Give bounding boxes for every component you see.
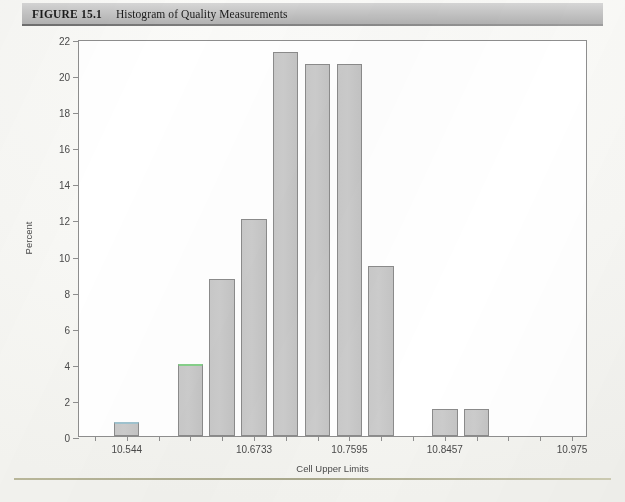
x-axis-tick-label: 10.975 (557, 444, 588, 455)
plot-frame: 0246810121416182022 10.54410.673310.7595… (78, 40, 587, 437)
figure-title: Histogram of Quality Measurements (116, 8, 288, 20)
y-axis-tick (73, 221, 79, 222)
y-axis-tick (73, 77, 79, 78)
histogram-chart: Percent 0246810121416182022 10.54410.673… (0, 26, 625, 478)
histogram-bar (273, 52, 298, 436)
x-axis-tick (572, 436, 573, 441)
y-axis-tick (73, 294, 79, 295)
histogram-bar (432, 409, 457, 436)
x-axis-tick (413, 436, 414, 441)
y-axis-tick (73, 149, 79, 150)
histogram-bar (241, 219, 266, 436)
y-axis-tick-label: 6 (64, 324, 70, 335)
scanned-page: FIGURE 15.1 Histogram of Quality Measure… (0, 0, 625, 502)
y-axis-tick-label: 12 (59, 216, 70, 227)
x-axis-tick (477, 436, 478, 441)
histogram-bar (114, 422, 139, 436)
x-axis-tick-label: 10.544 (111, 444, 142, 455)
x-axis-tick-label: 10.7595 (331, 444, 367, 455)
y-axis-tick-label: 22 (59, 36, 70, 47)
y-axis-tick-label: 4 (64, 360, 70, 371)
histogram-bar (305, 64, 330, 436)
y-axis-tick-label: 14 (59, 180, 70, 191)
x-axis-tick (508, 436, 509, 441)
y-axis-tick (73, 402, 79, 403)
histogram-bar (464, 409, 489, 436)
y-axis-tick (73, 113, 79, 114)
x-axis-tick (286, 436, 287, 441)
histogram-bar (209, 279, 234, 436)
y-axis-tick (73, 366, 79, 367)
y-axis-tick-label: 2 (64, 396, 70, 407)
x-axis-tick (318, 436, 319, 441)
x-axis-tick (190, 436, 191, 441)
x-axis-title: Cell Upper Limits (78, 463, 587, 474)
y-axis-tick-label: 0 (64, 433, 70, 444)
y-axis-tick-label: 18 (59, 108, 70, 119)
x-axis-tick (222, 436, 223, 441)
y-axis-tick-label: 20 (59, 72, 70, 83)
figure-header-bar: FIGURE 15.1 Histogram of Quality Measure… (22, 3, 603, 24)
x-axis-tick (349, 436, 350, 441)
x-axis-tick (127, 436, 128, 441)
x-axis-tick (445, 436, 446, 441)
histogram-bar (368, 266, 393, 436)
y-axis-title: Percent (23, 222, 34, 255)
footer-rule (14, 478, 611, 480)
y-axis-tick (73, 438, 79, 439)
x-axis-tick (540, 436, 541, 441)
y-axis-tick (73, 185, 79, 186)
y-axis-tick (73, 330, 79, 331)
y-axis-tick (73, 41, 79, 42)
figure-number: FIGURE 15.1 (32, 8, 102, 20)
histogram-bar (337, 64, 362, 436)
x-axis-tick (381, 436, 382, 441)
x-axis-tick (254, 436, 255, 441)
x-axis-tick (159, 436, 160, 441)
plot-area: 0246810121416182022 10.54410.673310.7595… (79, 41, 586, 436)
x-axis-tick-label: 10.6733 (236, 444, 272, 455)
y-axis-tick-label: 10 (59, 252, 70, 263)
x-axis-tick (95, 436, 96, 441)
y-axis-tick-label: 8 (64, 288, 70, 299)
histogram-bar (178, 364, 203, 436)
y-axis-tick-label: 16 (59, 144, 70, 155)
y-axis-tick (73, 258, 79, 259)
x-axis-tick-label: 10.8457 (427, 444, 463, 455)
